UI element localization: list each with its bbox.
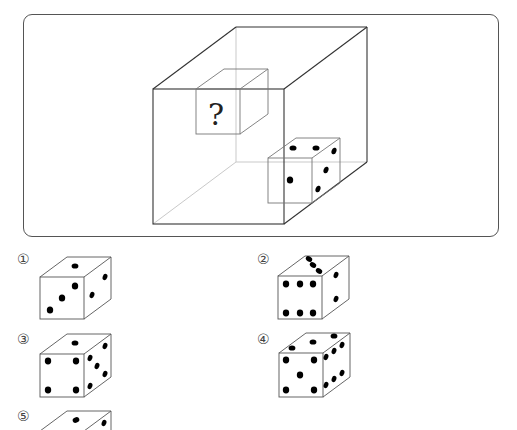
option-4-label[interactable]: ④ — [257, 331, 270, 347]
option-1-label[interactable]: ① — [17, 251, 30, 267]
option-3-die[interactable] — [40, 334, 111, 397]
question-mark: ? — [208, 97, 224, 132]
option-3-label[interactable]: ③ — [17, 331, 30, 347]
option-1-die[interactable] — [40, 257, 111, 319]
option-5-label[interactable]: ⑤ — [17, 408, 30, 424]
option-2-label[interactable]: ② — [257, 251, 270, 267]
reference-die — [268, 138, 340, 203]
option-4-die[interactable] — [279, 333, 350, 397]
puzzle-figure: ? — [0, 0, 517, 430]
option-2-die[interactable] — [278, 255, 349, 319]
large-transparent-cube — [153, 27, 367, 224]
option-5-die[interactable] — [40, 411, 111, 430]
unknown-cube — [196, 69, 268, 134]
